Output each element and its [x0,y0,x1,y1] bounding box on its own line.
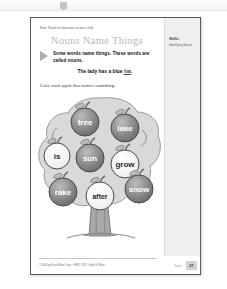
skills-sidebar: Skills: Identifying Nouns [164,18,200,256]
lead-instruction-text: Some words name things. These words are … [53,51,151,64]
footer-divider [39,258,157,259]
page-title: Nouns Name Things [31,35,163,46]
arrow-bullet-icon [40,51,48,61]
apple-word: sun [83,154,97,163]
apple-word: after [92,193,107,200]
directions-note: Note: Read the directions to your child. [40,26,150,30]
apple-tree-illustration: treelakeissungrowrakeaftersnow [37,94,163,244]
example-sentence: The lady has a blue hat. [53,69,157,74]
apple-word: grow [115,160,135,169]
viewer-toolbar[interactable] [0,0,227,11]
skills-label: Skills: [169,37,180,41]
page-number: 27 [186,261,197,270]
apple-word: snow [129,185,150,194]
pdf-viewer: Skills: Identifying Nouns Note: Read the… [0,0,227,289]
skills-value: Identifying Nouns [169,43,197,48]
apple-word: lake [117,124,133,133]
task-instruction: Color each apple that names something. [40,83,160,88]
document-icon [60,2,67,9]
apple-word: is [54,152,61,161]
copyright-text: ©2006 by Evan-Moor Corp. • EMC 4537 • Sp… [39,264,105,267]
apple-word: tree [78,118,93,127]
example-suffix: . [131,69,132,74]
worksheet-page[interactable]: Skills: Identifying Nouns Note: Read the… [30,17,201,275]
example-prefix: The lady has a blue [77,69,123,74]
footer-label: Nouns [174,265,182,268]
apple-word: rake [55,188,72,197]
